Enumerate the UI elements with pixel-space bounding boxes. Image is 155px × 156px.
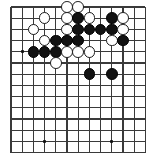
white-stone[interactable] xyxy=(72,46,84,58)
stone-layer xyxy=(0,0,155,156)
black-stone[interactable] xyxy=(72,35,84,47)
black-stone[interactable] xyxy=(95,24,107,36)
white-stone[interactable] xyxy=(61,12,73,24)
white-stone[interactable] xyxy=(61,24,73,36)
white-stone[interactable] xyxy=(84,46,96,58)
black-stone[interactable] xyxy=(84,24,96,36)
black-stone[interactable] xyxy=(50,46,62,58)
black-stone[interactable] xyxy=(72,12,84,24)
black-stone[interactable] xyxy=(61,35,73,47)
white-stone[interactable] xyxy=(72,1,84,13)
go-board-diagram xyxy=(0,0,155,156)
black-stone[interactable] xyxy=(106,12,118,24)
black-stone[interactable] xyxy=(50,35,62,47)
white-stone[interactable] xyxy=(117,12,129,24)
black-stone[interactable] xyxy=(106,68,118,80)
star-point xyxy=(110,140,113,143)
white-stone[interactable] xyxy=(39,35,51,47)
star-point xyxy=(43,140,46,143)
star-point xyxy=(21,50,24,53)
black-stone[interactable] xyxy=(117,35,129,47)
black-stone[interactable] xyxy=(84,68,96,80)
white-stone[interactable] xyxy=(61,1,73,13)
white-stone[interactable] xyxy=(39,12,51,24)
black-stone[interactable] xyxy=(106,24,118,36)
white-stone[interactable] xyxy=(84,12,96,24)
black-stone[interactable] xyxy=(28,46,40,58)
white-stone[interactable] xyxy=(50,57,62,69)
white-stone[interactable] xyxy=(117,24,129,36)
white-stone[interactable] xyxy=(106,35,118,47)
white-stone[interactable] xyxy=(28,24,40,36)
black-stone[interactable] xyxy=(72,24,84,36)
black-stone[interactable] xyxy=(39,46,51,58)
white-stone[interactable] xyxy=(61,46,73,58)
